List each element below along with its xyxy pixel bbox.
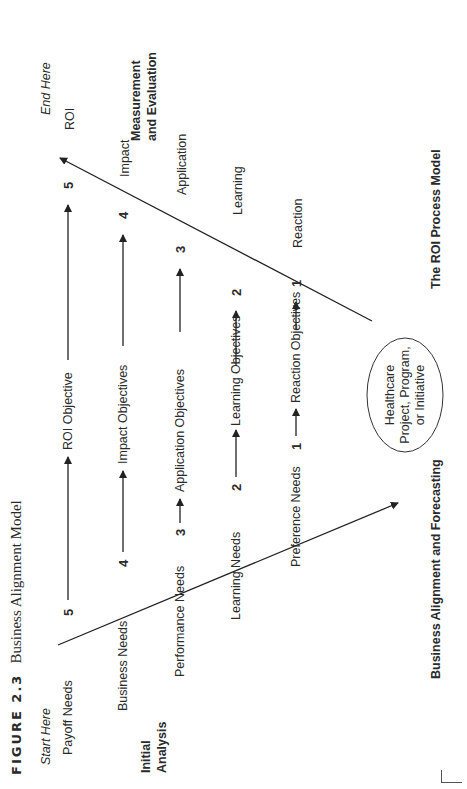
left-level-label: Payoff Needs bbox=[62, 680, 75, 755]
roi-process-caption: The ROI Process Model bbox=[430, 149, 443, 289]
objective-label: Learning Objectives bbox=[230, 316, 243, 426]
right-level-label: Reaction bbox=[292, 199, 305, 248]
left-level-number: 1 bbox=[290, 443, 303, 450]
right-diagonal-arrow bbox=[60, 158, 372, 321]
right-level-number: 2 bbox=[230, 289, 243, 296]
right-level-number: 1 bbox=[290, 280, 303, 287]
start-here-label: Start Here bbox=[40, 708, 53, 765]
objective-label: ROI Objective bbox=[62, 372, 75, 450]
right-level-label: ROI bbox=[64, 108, 77, 130]
measurement-evaluation-label: Measurement and Evaluation bbox=[128, 52, 160, 141]
left-level-label: Preference Needs bbox=[290, 466, 303, 567]
right-level-label: Impact bbox=[119, 139, 132, 177]
objective-label: Impact Objectives bbox=[117, 365, 130, 464]
left-level-label: Business Needs bbox=[117, 621, 130, 711]
left-level-number: 4 bbox=[117, 560, 130, 567]
left-level-number: 2 bbox=[230, 484, 243, 491]
right-level-number: 3 bbox=[174, 246, 187, 253]
left-level-number: 3 bbox=[174, 529, 187, 536]
objective-label: Application Objectives bbox=[174, 369, 187, 492]
left-diagonal-arrow bbox=[58, 503, 398, 645]
business-alignment-caption: Business Alignment and Forecasting bbox=[430, 459, 443, 679]
left-level-number: 5 bbox=[62, 609, 75, 616]
left-level-label: Performance Needs bbox=[174, 566, 187, 677]
end-here-label: End Here bbox=[40, 62, 53, 115]
right-level-number: 4 bbox=[117, 212, 130, 219]
right-level-label: Application bbox=[176, 134, 189, 195]
diagram-stage: FIGURE 2.3Business Alignment Model Start… bbox=[0, 0, 467, 789]
center-ellipse-text: Healthcare Project, Program, or Initiati… bbox=[383, 338, 428, 452]
objective-label: Reaction Objectives bbox=[290, 292, 303, 403]
initial-analysis-label: Initial Analysis bbox=[138, 722, 170, 773]
page-corner-mark bbox=[441, 770, 462, 783]
right-level-number: 5 bbox=[62, 182, 75, 189]
right-level-label: Learning bbox=[232, 166, 245, 215]
left-level-label: Learning Needs bbox=[230, 532, 243, 620]
